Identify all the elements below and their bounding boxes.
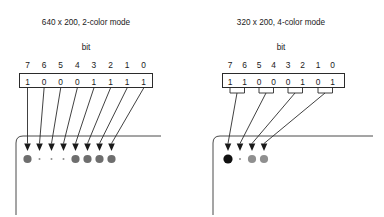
bit-number-3: 3: [92, 60, 97, 70]
byte-box: [20, 74, 153, 88]
bit-value-4: 0: [271, 77, 276, 87]
bit-value-1: 0: [316, 77, 321, 87]
pixel-dot: [107, 155, 115, 163]
diagram-canvas: 640 x 200, 2-color mode bit 7 6 5 4 3 2 …: [0, 0, 384, 217]
pixel-dot: [39, 158, 41, 160]
bit-value-2: 1: [300, 77, 305, 87]
pixel-dot: [71, 155, 79, 163]
bit-value-2: 1: [108, 77, 113, 87]
bit-number-4: 4: [75, 60, 80, 70]
diagram-title: 640 x 200, 2-color mode: [42, 18, 131, 27]
pixel-dot: [23, 155, 31, 163]
bit-value-3: 1: [92, 77, 97, 87]
bit-number-6: 6: [42, 60, 47, 70]
pixel-dot: [63, 158, 65, 160]
pixel-dot: [260, 155, 268, 163]
bit-number-6: 6: [242, 60, 247, 70]
bit-value-6: 1: [242, 77, 247, 87]
bit-number-0: 0: [330, 60, 335, 70]
bit-value-5: 0: [257, 77, 262, 87]
pixel-dot: [83, 155, 91, 163]
bitplane-diagram-figure: 640 x 200, 2-color mode bit 7 6 5 4 3 2 …: [0, 0, 384, 217]
bit-axis-label: bit: [277, 43, 286, 52]
bit-number-1: 1: [316, 60, 321, 70]
pixel-dot: [95, 155, 103, 163]
pixel-dot: [223, 154, 232, 163]
bit-number-5: 5: [58, 60, 63, 70]
pixel-dot: [51, 158, 53, 160]
bit-value-0: 1: [141, 77, 146, 87]
bit-value-7: 1: [25, 77, 30, 87]
bit-number-7: 7: [228, 60, 233, 70]
bit-number-2: 2: [108, 60, 113, 70]
bit-number-7: 7: [25, 60, 30, 70]
bit-number-1: 1: [125, 60, 130, 70]
bit-number-5: 5: [257, 60, 262, 70]
bit-number-3: 3: [286, 60, 291, 70]
bit-value-3: 0: [286, 77, 291, 87]
bit-number-2: 2: [300, 60, 305, 70]
pixel-dot: [239, 158, 241, 160]
bit-value-5: 0: [58, 77, 63, 87]
bit-value-7: 1: [228, 77, 233, 87]
bit-axis-label: bit: [82, 43, 91, 52]
pixel-dot: [248, 155, 256, 163]
bit-value-1: 1: [125, 77, 130, 87]
bit-value-4: 0: [75, 77, 80, 87]
bit-value-0: 1: [330, 77, 335, 87]
byte-box: [223, 74, 345, 88]
bit-number-0: 0: [141, 60, 146, 70]
diagram-title: 320 x 200, 4-color mode: [237, 18, 326, 27]
bit-value-6: 0: [42, 77, 47, 87]
bit-number-4: 4: [271, 60, 276, 70]
